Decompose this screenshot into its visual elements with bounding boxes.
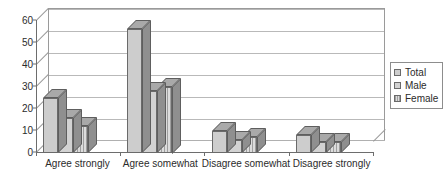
x-axis-tick — [120, 152, 121, 156]
chart-legend: Total Male Female — [390, 62, 443, 109]
legend-label: Male — [405, 81, 427, 91]
x-tick-label: Agree somewhat — [119, 158, 202, 174]
bar[interactable] — [43, 98, 58, 153]
bar-front-face — [127, 29, 142, 153]
x-tick-label: Agree strongly — [36, 158, 119, 174]
bars-layer — [36, 20, 373, 153]
bar[interactable] — [296, 135, 311, 153]
bar-side-face — [58, 89, 67, 153]
x-axis-tick — [204, 152, 205, 156]
legend-item[interactable]: Total — [394, 66, 438, 79]
x-axis-labels: Agree strongly Agree somewhat Disagree s… — [36, 158, 373, 174]
bar-front-face — [212, 131, 227, 153]
bar[interactable] — [212, 131, 227, 153]
x-axis-tick — [373, 152, 374, 156]
bar-group — [289, 20, 373, 153]
bar-front-face — [43, 98, 58, 153]
bar-side-face — [157, 82, 166, 153]
bar-front-face — [296, 135, 311, 153]
x-tick-label: Disagree strongly — [290, 158, 373, 174]
y-axis-ticks: 0 10 20 30 40 50 60 — [0, 0, 33, 179]
x-tick-label: Disagree somewhat — [202, 158, 290, 174]
bar[interactable] — [127, 29, 142, 153]
legend-swatch-icon — [394, 95, 401, 102]
legend-label: Total — [405, 68, 426, 78]
legend-swatch-icon — [394, 82, 401, 89]
y-tick-label: 30 — [22, 81, 33, 92]
y-tick-label: 10 — [22, 125, 33, 136]
bar-chart: 0 10 20 30 40 50 60 Agree strongly Agree… — [0, 0, 445, 179]
legend-item[interactable]: Male — [394, 79, 438, 92]
y-tick-label: 20 — [22, 103, 33, 114]
y-tick-label: 40 — [22, 59, 33, 70]
legend-item[interactable]: Female — [394, 92, 438, 105]
wall-depth-line — [36, 8, 49, 21]
bar-group — [205, 20, 289, 153]
gridline — [49, 9, 384, 10]
bar-side-face — [172, 78, 181, 154]
legend-label: Female — [405, 94, 438, 104]
bar-group — [36, 20, 120, 153]
legend-swatch-icon — [394, 69, 401, 76]
x-axis-tick — [289, 152, 290, 156]
y-tick-label: 50 — [22, 37, 33, 48]
y-tick-label: 0 — [27, 147, 33, 158]
x-axis-tick — [36, 152, 37, 156]
bar-group — [120, 20, 204, 153]
bar-side-face — [142, 20, 151, 153]
y-tick-label: 60 — [22, 15, 33, 26]
